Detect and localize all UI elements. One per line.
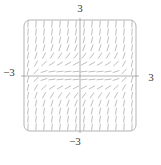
slope-dash <box>83 116 84 123</box>
slope-dash <box>60 20 61 27</box>
slope-dash <box>89 62 95 65</box>
slope-dash <box>57 62 63 65</box>
y-max-label: 3 <box>77 3 83 14</box>
slope-dash <box>34 61 38 67</box>
slope-dash <box>91 44 93 51</box>
slope-dash <box>91 108 93 115</box>
slope-dash <box>100 124 101 131</box>
slope-dash <box>131 68 133 75</box>
slope-dash <box>105 86 111 90</box>
slope-dash <box>89 71 96 72</box>
slope-dash <box>73 79 80 80</box>
slope-dash <box>35 100 36 107</box>
slope-dash <box>107 100 109 107</box>
slope-dash <box>123 92 125 99</box>
slope-dash <box>99 36 100 43</box>
slope-dash <box>27 68 29 75</box>
slope-dash <box>89 86 95 89</box>
slope-dash <box>90 92 94 98</box>
slope-dash <box>50 92 54 98</box>
slope-dash <box>113 78 120 80</box>
slope-dash <box>49 86 55 90</box>
slope-dash <box>123 100 124 107</box>
slope-dash <box>108 116 109 123</box>
slope-dash <box>131 60 133 67</box>
slope-dash <box>131 84 133 91</box>
slope-dash <box>113 85 118 90</box>
slope-dash <box>41 85 46 90</box>
slope-dash <box>44 124 45 131</box>
slope-dash <box>98 92 102 98</box>
slope-dash <box>123 44 124 51</box>
slope-dash <box>81 86 87 89</box>
slope-dash <box>36 20 37 27</box>
x-max-label: 3 <box>148 72 154 83</box>
slope-dash <box>107 108 108 115</box>
slope-dash <box>97 86 103 89</box>
slope-dash <box>92 20 93 27</box>
slope-dash <box>100 28 101 35</box>
slope-dash <box>82 53 86 59</box>
slope-dash <box>75 44 77 51</box>
slope-dash <box>67 44 69 51</box>
slope-dash <box>105 71 112 72</box>
slope-dash <box>115 108 116 115</box>
slope-dash <box>116 20 117 27</box>
slope-dash <box>35 52 37 59</box>
slope-dash <box>89 79 96 80</box>
slope-dash <box>83 108 85 115</box>
slope-dash <box>52 124 53 131</box>
slope-dash <box>35 92 37 99</box>
slope-dash <box>81 62 87 65</box>
slope-dash <box>122 84 126 90</box>
slope-dash <box>44 28 45 35</box>
slope-dash <box>91 36 93 43</box>
slope-dash <box>73 86 79 89</box>
slope-dash <box>58 53 62 59</box>
slope-dash <box>75 28 76 35</box>
slope-dash <box>124 28 125 35</box>
slope-dash <box>28 44 29 51</box>
slope-dash <box>107 44 109 51</box>
slope-dash <box>52 116 53 123</box>
slope-dash <box>83 28 84 35</box>
slope-dash <box>27 76 29 83</box>
slope-dash <box>43 100 45 107</box>
slope-dash <box>51 44 53 51</box>
slope-dash <box>49 71 56 72</box>
slope-dash <box>50 53 54 59</box>
slope-dash <box>83 36 85 43</box>
slope-dash <box>106 92 110 98</box>
slope-dash <box>115 100 117 107</box>
slope-dash <box>106 53 110 59</box>
slope-dash <box>108 28 109 35</box>
slope-dash <box>99 44 101 51</box>
slope-dash <box>36 116 37 123</box>
slope-dash <box>74 53 78 59</box>
slope-dash <box>52 20 53 27</box>
slope-dash <box>122 69 127 74</box>
slope-dash <box>131 52 132 59</box>
slope-dash <box>108 124 109 131</box>
slope-dash <box>49 62 55 66</box>
slope-dash <box>36 36 37 43</box>
slope-dash <box>124 116 125 123</box>
slope-dash <box>27 52 28 59</box>
slope-dash <box>73 62 79 65</box>
slope-dash <box>36 108 37 115</box>
slope-dash <box>75 36 77 43</box>
slope-dash <box>113 71 120 73</box>
slope-dash <box>115 44 117 51</box>
slope-dash <box>97 71 104 72</box>
slope-dash <box>75 100 77 107</box>
slope-dash <box>107 36 108 43</box>
slope-dash <box>116 28 117 35</box>
slope-dash <box>65 86 71 89</box>
slope-dash <box>84 20 85 27</box>
slope-dash <box>108 20 109 27</box>
slope-dash <box>132 100 133 107</box>
slope-dash <box>59 100 61 107</box>
slope-dash <box>91 116 92 123</box>
slope-dash <box>124 108 125 115</box>
slope-dash <box>100 116 101 123</box>
